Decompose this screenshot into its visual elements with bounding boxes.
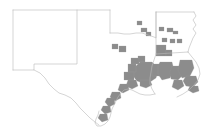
county-hl-ar-6 (177, 39, 182, 43)
county-hl-se-oklahoma-1 (137, 21, 142, 25)
map-canvas (0, 0, 217, 139)
county-hl-east-tx-1 (119, 46, 126, 52)
county-hl-ar-5 (170, 39, 175, 43)
county-hl-houston-nw (131, 58, 139, 64)
county-hl-houston-sw (124, 72, 134, 80)
county-hl-ar-4 (162, 38, 167, 42)
county-hl-ar-1 (159, 27, 164, 31)
county-hl-ar-2 (167, 28, 173, 32)
county-hl-ar-3 (173, 31, 178, 34)
map-figure (0, 0, 217, 139)
county-hl-central-tx (112, 44, 118, 49)
county-hl-nw-la-1 (156, 45, 166, 56)
county-hl-se-oklahoma-2 (141, 28, 147, 32)
county-hl-houston-w (128, 64, 136, 72)
state-area-new-mexico (13, 10, 77, 70)
